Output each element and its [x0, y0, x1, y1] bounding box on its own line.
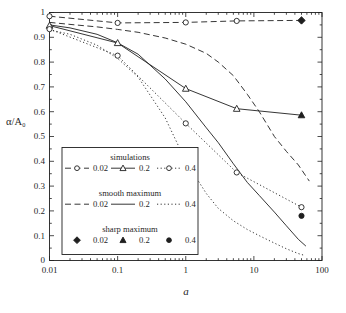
series-line-simulations-0.2	[50, 26, 302, 116]
legend-entry-label: 0.4	[185, 235, 196, 245]
marker-simulations-0.2	[233, 105, 240, 111]
marker-simulations-0.02	[234, 18, 239, 23]
marker-simulations-0.4	[234, 170, 239, 175]
y-tick-label: 0.2	[34, 206, 45, 216]
y-tick-label: 0.9	[34, 32, 46, 42]
legend-entry-label: 0.4	[185, 163, 196, 173]
x-tick-label: 10	[249, 265, 259, 275]
x-tick-label: 0.01	[42, 265, 58, 275]
x-axis-label: a	[178, 285, 194, 297]
legend-entry-label: 0.02	[93, 199, 108, 209]
y-tick-label: 0	[41, 255, 46, 265]
marker-simulations-0.4	[183, 121, 188, 126]
legend-sample-marker	[167, 238, 172, 243]
y-axis-label: α/A₀	[6, 116, 48, 127]
y-tick-label: 0.4	[34, 156, 46, 166]
marker-simulations-0.4	[299, 205, 304, 210]
marker-simulations-0.02	[183, 20, 188, 25]
legend-sample-marker	[75, 166, 80, 171]
marker-sharp-maximum-0.02	[298, 17, 305, 24]
y-tick-label: 0.8	[34, 57, 46, 67]
legend-entry-label: 0.2	[139, 163, 150, 173]
y-tick-label: 0.5	[34, 131, 46, 141]
legend-sample-marker	[167, 166, 172, 171]
legend-entry-label: 0.2	[139, 235, 150, 245]
legend-entry-label: 0.02	[93, 235, 108, 245]
y-tick-label: 0.7	[34, 82, 46, 92]
legend-group-title: simulations	[110, 152, 150, 162]
series-line-simulations-0.02	[50, 16, 302, 23]
marker-simulations-0.4	[115, 53, 120, 58]
legend-group-title: sharp maximum	[102, 224, 158, 234]
legend-box	[62, 148, 198, 255]
marker-simulations-0.4	[47, 27, 52, 32]
x-tick-label: 1	[184, 265, 189, 275]
legend-group-title: smooth maximum	[99, 188, 162, 198]
y-tick-label: 0.1	[34, 231, 45, 241]
figure-root: 0.010.111010000.10.20.30.40.50.60.70.80.…	[0, 0, 346, 313]
x-tick-label: 100	[315, 265, 329, 275]
x-tick-label: 0.1	[112, 265, 123, 275]
marker-simulations-0.2	[182, 85, 189, 91]
legend-entry-label: 0.02	[93, 163, 108, 173]
marker-simulations-0.02	[115, 20, 120, 25]
marker-simulations-0.02	[47, 14, 52, 19]
chart-canvas: 0.010.111010000.10.20.30.40.50.60.70.80.…	[0, 0, 346, 313]
marker-sharp-maximum-0.4	[299, 213, 304, 218]
legend-entry-label: 0.2	[139, 199, 150, 209]
y-tick-label: 1	[41, 7, 46, 17]
y-tick-label: 0.3	[34, 181, 46, 191]
legend-entry-label: 0.4	[185, 199, 196, 209]
